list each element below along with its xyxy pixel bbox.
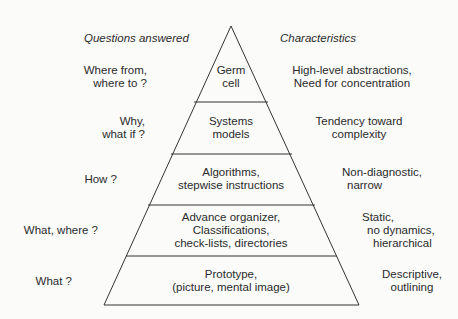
characteristics-header: Characteristics (280, 32, 356, 45)
question-advance-organizer: What, where ? (24, 224, 98, 237)
question-germ-cell: Where from,where to ? (84, 64, 147, 90)
level-systems-models: Systemsmodels (209, 115, 253, 141)
question-systems-models: Why,what if ? (102, 115, 145, 141)
level-prototype: Prototype,(picture, mental image) (172, 268, 290, 294)
level-algorithms: Algorithms,stepwise instructions (178, 166, 284, 192)
level-advance-organizer: Advance organizer,Classifications,check-… (174, 211, 287, 250)
characteristic-germ-cell: High-level abstractions,Need for concent… (292, 64, 412, 90)
questions-header: Questions answered (84, 32, 189, 45)
characteristic-advance-organizer: Static, no dynamics, hierarchical (362, 211, 435, 250)
question-algorithms: How ? (84, 173, 117, 186)
level-germ-cell: Germcell (217, 64, 246, 90)
question-prototype: What ? (36, 275, 72, 288)
characteristic-algorithms: Non-diagnostic,narrow (342, 166, 422, 192)
characteristic-prototype: Descriptive,outlining (382, 268, 442, 294)
characteristic-systems-models: Tendency towardcomplexity (316, 115, 403, 141)
